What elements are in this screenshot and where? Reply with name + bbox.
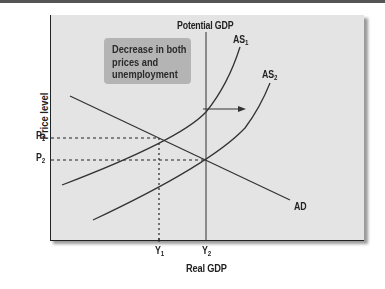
potential-gdp-label: Potential GDP	[177, 21, 233, 31]
as2-curve	[93, 83, 270, 220]
as1-label: AS1	[233, 35, 248, 48]
p2-label: P2	[36, 153, 45, 166]
shift-arrow-icon	[238, 106, 246, 112]
ad-curve	[70, 96, 290, 200]
as2-label: AS2	[262, 70, 277, 83]
y1-label: Y1	[155, 246, 164, 259]
x-axis-title: Real GDP	[186, 263, 227, 273]
y-axis-title: Price level	[38, 89, 50, 143]
ad-label: AD	[294, 202, 306, 212]
chart-svg	[0, 0, 385, 289]
y2-label: Y2	[202, 246, 211, 259]
